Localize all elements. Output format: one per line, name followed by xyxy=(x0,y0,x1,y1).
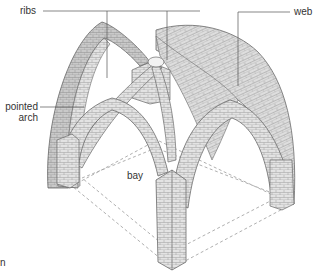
cropped-label-fragment: n xyxy=(0,257,6,268)
pointed-arch-label-line1: pointed xyxy=(0,101,38,112)
right-pier xyxy=(270,160,294,210)
web-label: web xyxy=(294,6,312,17)
front-center-pier xyxy=(156,170,186,270)
front-left-pier xyxy=(57,134,79,188)
bay-label: bay xyxy=(127,170,143,181)
pointed-arch-label-line2: arch xyxy=(0,112,38,123)
rib-vault-diagram xyxy=(0,0,314,271)
ribs-label: ribs xyxy=(20,5,36,16)
keystone-boss xyxy=(148,57,164,67)
